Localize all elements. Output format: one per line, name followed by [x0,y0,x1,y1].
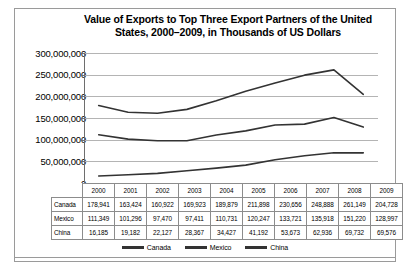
table-row: Mexico111,349101,29697,47097,411110,7311… [52,212,403,226]
table-row: Canada178,941163,424160,922169,923189,87… [52,198,403,212]
table-row-label: Canada [52,198,83,212]
table-row: China16,18519,18222,12728,36734,42741,19… [52,226,403,240]
table-cell: 28,367 [179,226,211,240]
y-axis-tick-label: 50,000,000 [10,157,86,166]
table-cell: 163,424 [115,198,147,212]
chart-legend: CanadaMexicoChina [14,244,396,251]
table-cell: 189,879 [211,198,243,212]
table-cell: 133,721 [275,212,307,226]
table-cell: 230,656 [275,198,307,212]
table-column-header: 2002 [147,184,179,198]
table-cell: 151,220 [339,212,371,226]
table-header-row: 2000200120022003200420052006200720082009 [52,184,403,198]
table-cell: 97,470 [147,212,179,226]
table-corner-cell [52,184,83,198]
y-axis-tick-label: 250,000,000 [10,70,86,79]
y-axis-labels: 300,000,000250,000,000200,000,000150,000… [10,53,86,183]
table-body: Canada178,941163,424160,922169,923189,87… [52,198,403,240]
y-axis-tick-label: 200,000,000 [10,92,86,101]
table-cell: 34,427 [211,226,243,240]
table-cell: 53,673 [275,226,307,240]
table-cell: 204,728 [371,198,403,212]
table-cell: 41,192 [243,226,275,240]
y-axis-tick-label: 300,000,000 [10,49,86,58]
legend-swatch-icon [185,246,207,249]
series-line-canada [99,70,364,113]
table-column-header: 2009 [371,184,403,198]
plot-area: 300,000,000250,000,000200,000,000150,000… [84,53,378,183]
table-cell: 69,732 [339,226,371,240]
table-cell: 169,923 [179,198,211,212]
table-row-label: China [52,226,83,240]
table-column-header: 2007 [307,184,339,198]
table-cell: 111,349 [83,212,115,226]
table-cell: 120,247 [243,212,275,226]
table-cell: 62,936 [307,226,339,240]
table-cell: 261,149 [339,198,371,212]
table-cell: 101,296 [115,212,147,226]
table-cell: 248,888 [307,198,339,212]
data-table: 2000200120022003200420052006200720082009… [51,183,403,240]
table-cell: 16,185 [83,226,115,240]
table-column-header: 2004 [211,184,243,198]
table-column-header: 2000 [83,184,115,198]
legend-item-mexico: Mexico [185,244,232,251]
legend-label: China [270,244,288,251]
table-cell: 160,922 [147,198,179,212]
table-cell: 128,997 [371,212,403,226]
table-cell: 69,576 [371,226,403,240]
legend-label: Canada [147,244,171,251]
legend-label: Mexico [210,244,232,251]
table-column-header: 2005 [243,184,275,198]
series-lines [84,53,378,183]
table-cell: 19,182 [115,226,147,240]
series-line-mexico [99,117,364,140]
table-cell: 178,941 [83,198,115,212]
y-axis-tick-label: 150,000,000 [10,114,86,123]
table-cell: 135,918 [307,212,339,226]
table-cell: 22,127 [147,226,179,240]
y-axis-tick-label: 100,000,000 [10,135,86,144]
series-line-china [99,153,364,176]
legend-item-china: China [245,244,288,251]
legend-item-canada: Canada [122,244,171,251]
table-cell: 110,731 [211,212,243,226]
table-column-header: 2001 [115,184,147,198]
table-column-header: 2008 [339,184,371,198]
legend-swatch-icon [122,246,144,249]
table-cell: 97,411 [179,212,211,226]
table-cell: 211,898 [243,198,275,212]
table-column-header: 2006 [275,184,307,198]
table-row-label: Mexico [52,212,83,226]
table-column-header: 2003 [179,184,211,198]
legend-divider [14,257,396,258]
legend-swatch-icon [245,246,267,249]
